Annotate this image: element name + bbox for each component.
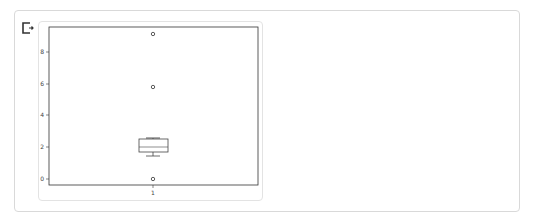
outlier-point — [151, 177, 154, 180]
box-iqr — [139, 139, 168, 152]
y-tick-label: 6 — [40, 80, 44, 87]
x-tick-label: 1 — [151, 189, 155, 196]
y-axis: 0 2 4 6 8 — [40, 48, 49, 182]
y-tick-label: 0 — [40, 175, 44, 182]
boxplot-chart: 0 2 4 6 8 1 — [0, 0, 534, 222]
outlier-point — [151, 85, 154, 88]
x-axis: 1 — [151, 185, 155, 196]
y-tick-label: 4 — [40, 111, 44, 118]
y-tick-label: 2 — [40, 143, 44, 150]
axes-frame — [49, 27, 258, 185]
y-tick-label: 8 — [40, 48, 44, 55]
box-series-1 — [139, 138, 168, 156]
outlier-point — [151, 32, 154, 35]
outliers — [151, 32, 154, 180]
